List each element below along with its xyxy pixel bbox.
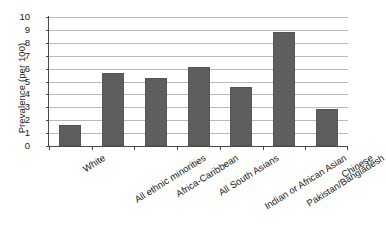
x-tick-mark bbox=[263, 146, 264, 150]
y-tick-mark bbox=[46, 107, 49, 108]
bar[interactable] bbox=[230, 87, 252, 146]
x-tick-mark bbox=[347, 146, 348, 150]
y-tick-label: 0 bbox=[14, 141, 30, 151]
y-tick-label: 1 bbox=[14, 128, 30, 138]
gridline bbox=[49, 146, 348, 147]
y-tick-label: 8 bbox=[14, 38, 30, 48]
x-tick-mark bbox=[134, 146, 135, 150]
gridline bbox=[49, 56, 348, 57]
y-tick-label: 2 bbox=[14, 115, 30, 125]
bar[interactable] bbox=[59, 125, 81, 146]
y-tick-label: 6 bbox=[14, 64, 30, 74]
y-tick-mark bbox=[46, 120, 49, 121]
x-tick-mark bbox=[305, 146, 306, 150]
y-tick-label: 3 bbox=[14, 102, 30, 112]
bar[interactable] bbox=[316, 109, 338, 146]
y-tick-label: 9 bbox=[14, 25, 30, 35]
bar[interactable] bbox=[102, 73, 124, 146]
y-tick-mark bbox=[46, 17, 49, 18]
bar[interactable] bbox=[188, 67, 210, 146]
y-tick-mark bbox=[46, 133, 49, 134]
y-tick-label: 7 bbox=[14, 51, 30, 61]
y-tick-mark bbox=[46, 69, 49, 70]
bar[interactable] bbox=[273, 32, 295, 146]
y-tick-mark bbox=[46, 56, 49, 57]
y-tick-mark bbox=[46, 94, 49, 95]
x-tick-mark bbox=[92, 146, 93, 150]
y-tick-mark bbox=[46, 43, 49, 44]
bar[interactable] bbox=[145, 78, 167, 146]
y-tick-mark bbox=[46, 30, 49, 31]
y-tick-label: 5 bbox=[14, 77, 30, 87]
y-tick-mark bbox=[46, 82, 49, 83]
plot-area: 109876543210WhiteAll ethnic minoritiesAf… bbox=[49, 17, 348, 146]
x-tick-mark bbox=[177, 146, 178, 150]
y-tick-label: 10 bbox=[14, 12, 30, 22]
x-tick-mark bbox=[49, 146, 50, 150]
y-tick-label: 4 bbox=[14, 89, 30, 99]
gridline bbox=[49, 43, 348, 44]
x-tick-mark bbox=[220, 146, 221, 150]
gridline bbox=[49, 30, 348, 31]
gridline bbox=[49, 17, 348, 18]
x-axis-category-label: White bbox=[81, 152, 107, 174]
